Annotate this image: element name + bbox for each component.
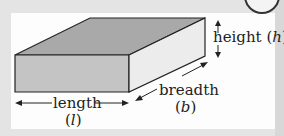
length-symbol: l	[71, 111, 76, 129]
height-arrowhead-down	[215, 52, 221, 58]
length-symbol-label: (l)	[65, 111, 82, 129]
height-text: height	[213, 28, 262, 46]
breadth-symbol: b	[181, 98, 191, 116]
cuboid-diagram	[0, 0, 284, 136]
height-label: height (h)	[213, 28, 284, 46]
cuboid-front-face	[15, 55, 129, 92]
breadth-symbol-label: (b)	[175, 98, 196, 116]
breadth-arrow-upper	[182, 65, 203, 76]
breadth-arrowhead-lower	[135, 95, 143, 101]
breadth-label: breadth	[159, 81, 219, 99]
length-arrowhead-right	[122, 100, 129, 106]
length-label: length	[53, 94, 102, 112]
corner-badge-icon	[245, 0, 279, 13]
length-arrowhead-left	[15, 100, 22, 106]
height-arrowhead-up	[215, 20, 221, 26]
height-symbol: h	[272, 28, 282, 46]
breadth-arrow-lower	[140, 89, 157, 98]
breadth-arrowhead-upper	[200, 62, 208, 68]
